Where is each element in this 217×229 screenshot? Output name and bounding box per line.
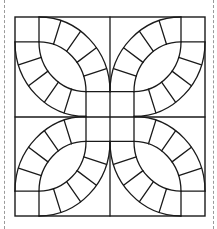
quilt-block-diagram [0, 0, 217, 229]
